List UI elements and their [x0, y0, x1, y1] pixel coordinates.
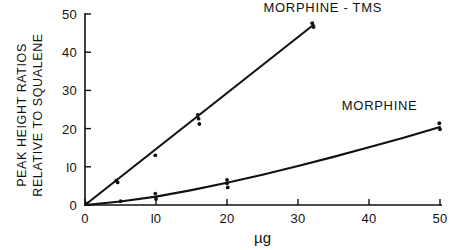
x-axis-title: µg	[254, 229, 271, 246]
data-point-morphine-tms-8	[312, 25, 316, 29]
y-tick-label-40: 40	[62, 45, 77, 60]
x-tick-label-10: l0	[151, 211, 162, 226]
x-tick-label-40: 40	[361, 211, 376, 226]
fit-line-morphine	[85, 127, 440, 205]
data-point-morphine-7	[437, 121, 441, 125]
y-tick-label-30: 30	[62, 83, 77, 98]
data-point-morphine-6	[226, 186, 230, 190]
series-label-group: MORPHINE - TMSMORPHINE	[264, 0, 418, 113]
series-label-morphine-tms: MORPHINE - TMS	[264, 0, 383, 15]
data-point-morphine-tms-3	[153, 153, 157, 157]
data-point-morphine-8	[438, 127, 442, 131]
data-point-morphine-5	[225, 181, 229, 185]
y-tick-label-20: 20	[62, 122, 77, 137]
data-point-morphine-tms-6	[197, 122, 201, 126]
data-point-morphine-3	[154, 197, 158, 201]
data-point-morphine-2	[153, 192, 157, 196]
x-tick-label-30: 30	[290, 211, 305, 226]
chart-plot: 0l020304050 0l020304050 MORPHINE - TMSMO…	[0, 0, 458, 250]
x-tick-label-50: 50	[432, 211, 447, 226]
figure-root: PEAK HEIGHT RATIOS RELATIVE TO SQUALENE …	[0, 0, 458, 250]
data-point-morphine-tms-7	[310, 21, 314, 25]
y-tick-label-0: 0	[69, 198, 77, 213]
data-point-morphine-0	[85, 202, 89, 206]
data-point-group	[85, 21, 442, 205]
series-label-morphine: MORPHINE	[342, 98, 418, 113]
fit-line-group	[85, 25, 440, 205]
data-point-morphine-tms-4	[196, 113, 200, 117]
data-point-morphine-tms-2	[116, 181, 120, 185]
x-tick-label-20: 20	[219, 211, 234, 226]
y-tick-label-50: 50	[62, 7, 77, 22]
data-point-morphine-1	[119, 199, 123, 203]
x-tick-label-0: 0	[81, 211, 89, 226]
y-tick-label-10: l0	[66, 160, 77, 175]
data-point-morphine-4	[225, 178, 229, 182]
y-tick-group: 0l020304050	[62, 7, 91, 213]
x-axis-title-group: µg	[254, 229, 271, 246]
data-point-morphine-tms-5	[197, 117, 201, 121]
x-tick-group: 0l020304050	[81, 199, 447, 226]
